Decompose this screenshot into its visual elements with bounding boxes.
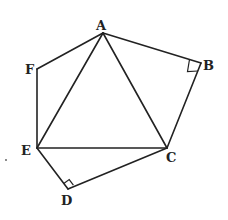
vertex-label-a: A xyxy=(95,18,107,33)
vertex-label-c: C xyxy=(166,150,176,165)
edge-de xyxy=(37,148,68,189)
edge-cd xyxy=(68,148,167,189)
edge-bc xyxy=(167,63,201,148)
geometry-diagram: A B C D E F xyxy=(0,0,228,220)
vertex-label-f: F xyxy=(25,62,35,77)
vertex-label-d: D xyxy=(61,193,72,208)
vertex-label-b: B xyxy=(203,58,214,73)
vertex-label-e: E xyxy=(21,143,31,158)
noise-dot xyxy=(5,159,7,161)
